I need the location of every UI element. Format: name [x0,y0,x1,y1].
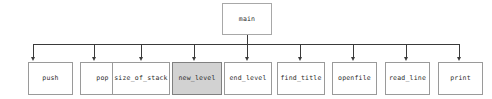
arrowhead-size_of_stack [139,57,143,61]
node-root-main[interactable]: main [222,3,272,35]
arrowhead-pop [92,57,96,61]
node-print[interactable]: print [438,62,483,95]
edge-stem-print [459,44,460,58]
arrowhead-find_title [298,57,302,61]
arrowhead-push [31,57,35,61]
edge-stem-read_line [406,44,407,58]
arrowhead-print [457,57,461,61]
node-new_level[interactable]: new_level [172,62,222,95]
node-read_line[interactable]: read_line [385,62,430,95]
edge-stem-pop [94,44,95,58]
call-graph-diagram: mainpushpopsize_of_stacknew_levelend_lev… [0,0,492,99]
node-openfile[interactable]: openfile [332,62,377,95]
arrowhead-openfile [351,57,355,61]
edge-root-stem [247,35,248,44]
arrowhead-end_level [245,57,249,61]
edge-stem-end_level [247,44,248,58]
edge-stem-openfile [353,44,354,58]
edge-stem-new_level [194,44,195,58]
node-find_title[interactable]: find_title [277,62,325,95]
arrowhead-new_level [192,57,196,61]
node-push[interactable]: push [28,62,73,95]
edge-horizontal-bus [33,44,459,45]
node-end_level[interactable]: end_level [224,62,272,95]
arrowhead-read_line [404,57,408,61]
edge-stem-find_title [300,44,301,58]
edge-stem-size_of_stack [141,44,142,58]
node-size_of_stack[interactable]: size_of_stack [112,62,170,95]
edge-stem-push [33,44,34,58]
